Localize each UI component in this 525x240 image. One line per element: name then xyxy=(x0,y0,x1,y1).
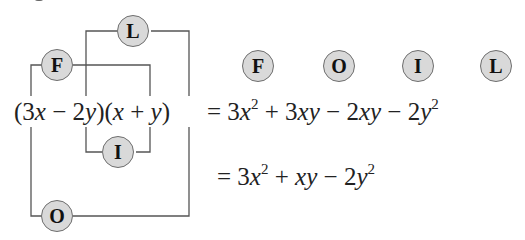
foil-badge-first: F xyxy=(41,49,73,81)
legend-badge-first: F xyxy=(242,50,274,82)
legend-badge-outer: O xyxy=(323,50,355,82)
simplified-expression: = 3x2 + xy − 2y2 xyxy=(217,164,375,189)
binomial-product: (3x − 2y)(x + y) xyxy=(14,99,170,124)
legend-badge-last: L xyxy=(480,50,512,82)
foil-badge-inner: I xyxy=(102,136,134,168)
legend-badge-inner: I xyxy=(402,50,434,82)
foil-badge-outer: O xyxy=(41,200,73,232)
foil-badge-last: L xyxy=(117,15,149,47)
expanded-expression: = 3x2 + 3xy − 2xy − 2y2 xyxy=(207,99,439,124)
foil-diagram: F L I O F O I L (3x − 2y)(x + y) = 3x2 +… xyxy=(0,0,525,240)
